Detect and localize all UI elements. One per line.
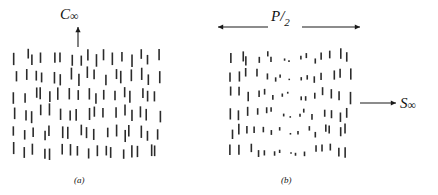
panel-a bbox=[12, 48, 162, 160]
pitch-arrow-left bbox=[212, 21, 274, 33]
pitch-denominator: 2 bbox=[284, 16, 290, 28]
s-infinity-subscript: ∞ bbox=[408, 98, 417, 112]
pitch-arrow-right bbox=[296, 21, 366, 33]
panel-a-caption: (a) bbox=[74, 175, 85, 185]
panel-b bbox=[228, 48, 352, 160]
arrow-head bbox=[218, 24, 223, 29]
s-infinity-label: S∞ bbox=[400, 95, 416, 111]
arrow-head bbox=[355, 24, 360, 29]
c-infinity-label: C∞ bbox=[60, 6, 79, 22]
c-infinity-symbol: C bbox=[60, 6, 70, 22]
figure-root: C∞ (a) P/2 S∞ (b) bbox=[0, 0, 438, 195]
dash-field-b bbox=[228, 48, 352, 160]
c-infinity-arrow bbox=[72, 21, 84, 53]
arrow-head bbox=[75, 27, 80, 32]
arrow-head bbox=[391, 100, 396, 105]
s-infinity-arrow bbox=[354, 97, 402, 109]
dash-field-a bbox=[12, 48, 162, 160]
panel-b-caption: (b) bbox=[281, 175, 292, 185]
